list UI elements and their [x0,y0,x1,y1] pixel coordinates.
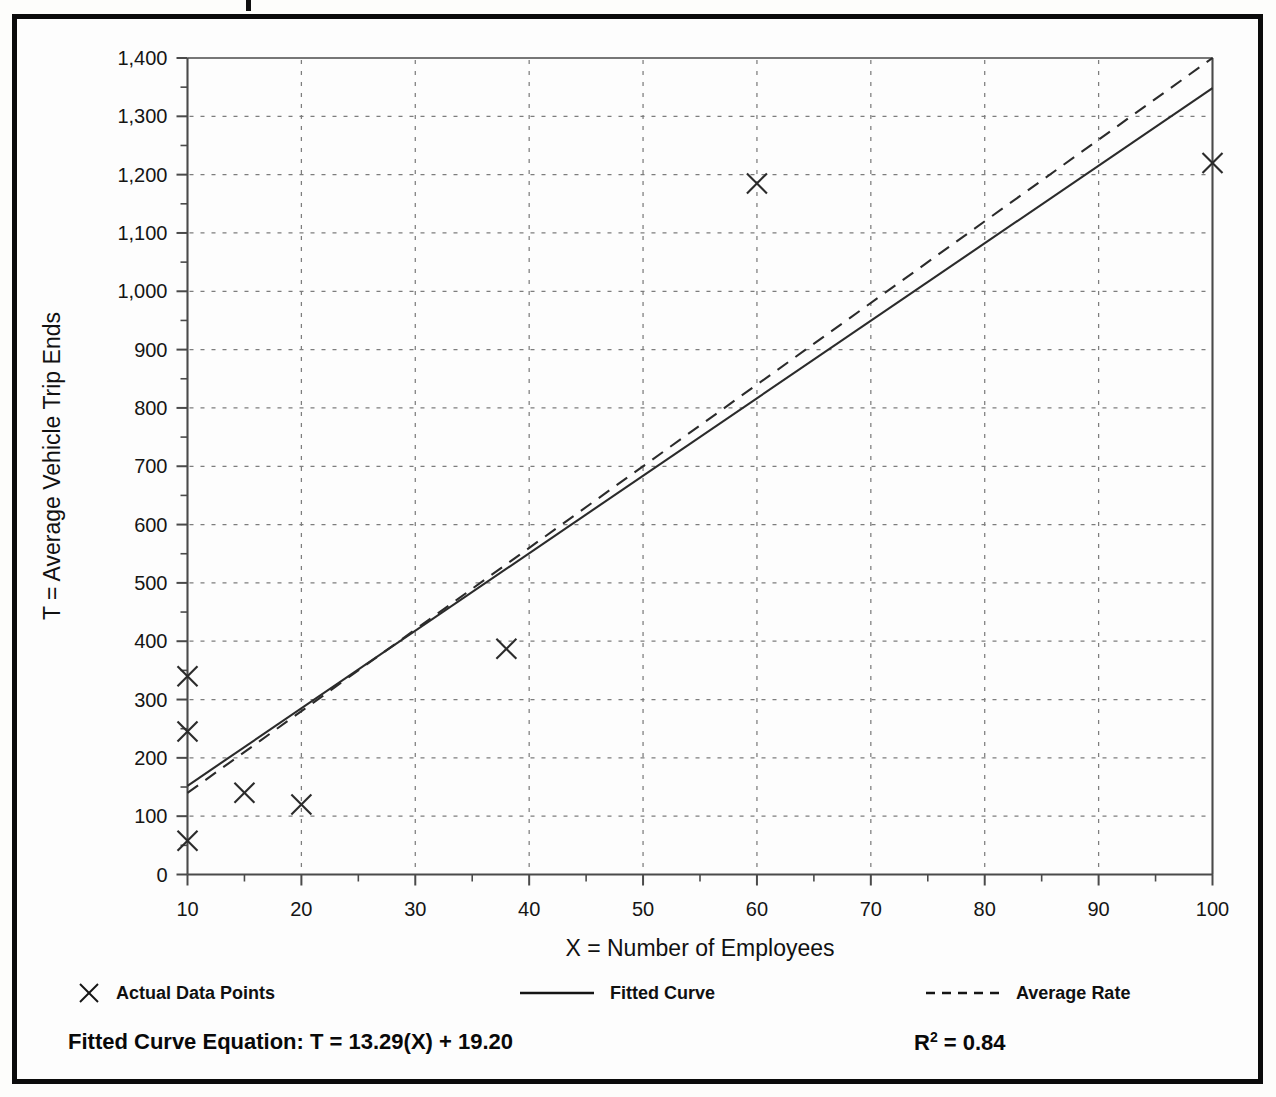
chart-page: 01002003004005006007008009001,0001,1001,… [0,0,1276,1097]
r-squared-value: R2 = 0.84 [914,1029,1006,1056]
x-marker-icon [76,980,102,1006]
x-tick-label: 80 [974,898,996,920]
fitted-curve-line [188,88,1213,786]
y-tick-label: 200 [134,747,167,769]
legend-item-actual-data-points[interactable]: Actual Data Points [76,975,275,1011]
y-tick-label: 900 [134,339,167,361]
data-point-markers [178,153,1223,851]
legend-item-fitted-curve[interactable]: Fitted Curve [518,975,715,1011]
y-tick-label: 500 [134,572,167,594]
y-tick-label: 300 [134,689,167,711]
chart-footer: Fitted Curve Equation: T = 13.29(X) + 19… [12,1027,1263,1067]
chart-svg: 01002003004005006007008009001,0001,1001,… [0,0,1276,1097]
r-squared-number: = 0.84 [938,1030,1006,1055]
x-tick-label: 90 [1087,898,1109,920]
y-axis-title: T = Average Vehicle Trip Ends [39,312,65,620]
x-tick-label: 30 [404,898,426,920]
average-rate-line [188,58,1213,793]
x-tick-label: 70 [860,898,882,920]
legend-label-actual-data-points: Actual Data Points [116,983,275,1004]
x-tick-label: 20 [290,898,312,920]
y-tick-label: 1,300 [117,105,167,127]
x-tick-label: 50 [632,898,654,920]
x-tick-label: 40 [518,898,540,920]
plot-container: 01002003004005006007008009001,0001,1001,… [0,0,1276,1097]
legend-item-average-rate[interactable]: Average Rate [924,975,1130,1011]
x-axis-title: X = Number of Employees [565,935,834,961]
y-tick-label: 1,100 [117,222,167,244]
chart-legend: Actual Data Points Fitted Curve Average … [12,975,1263,1011]
y-tick-label: 0 [156,864,167,886]
y-tick-label: 1,000 [117,280,167,302]
tick-labels: 01002003004005006007008009001,0001,1001,… [117,47,1229,920]
solid-line-icon [518,986,596,1000]
x-tick-label: 60 [746,898,768,920]
r-squared-symbol: R [914,1030,930,1055]
data-point-marker [496,639,516,659]
y-tick-label: 700 [134,455,167,477]
y-tick-label: 400 [134,630,167,652]
legend-label-fitted-curve: Fitted Curve [610,983,715,1004]
gridlines [190,60,1212,874]
series-lines [188,58,1213,793]
y-tick-label: 1,200 [117,164,167,186]
x-tick-label: 100 [1196,898,1229,920]
axis-ticks [177,58,1213,886]
data-point-marker [234,783,254,803]
x-tick-label: 10 [176,898,198,920]
y-tick-label: 600 [134,514,167,536]
y-tick-label: 800 [134,397,167,419]
y-tick-label: 1,400 [117,47,167,69]
data-point-marker [747,173,767,193]
y-tick-label: 100 [134,805,167,827]
legend-label-average-rate: Average Rate [1016,983,1130,1004]
fitted-curve-equation: Fitted Curve Equation: T = 13.29(X) + 19… [68,1029,513,1055]
dashed-line-icon [924,986,1002,1000]
r-squared-exponent: 2 [930,1029,938,1045]
